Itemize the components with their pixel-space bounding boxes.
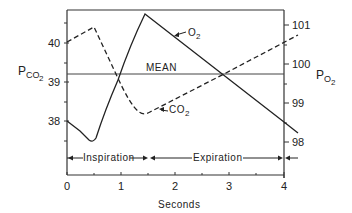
y-left-axis-title: P CO 2 xyxy=(18,64,44,83)
co2-series-line xyxy=(67,27,298,114)
respiratory-gas-chart: 40 39 38 101 100 99 98 0 1 2 3 4 Seconds… xyxy=(0,0,352,213)
svg-text:P: P xyxy=(18,64,26,78)
svg-text:CO: CO xyxy=(169,104,185,115)
svg-text:2: 2 xyxy=(39,74,44,83)
y-right-tick-98: 98 xyxy=(292,136,304,148)
mean-label: MEAN xyxy=(146,62,177,73)
next-inspiration-arrow-icon xyxy=(285,156,290,161)
inspiration-start-arrow-icon xyxy=(68,156,73,161)
expiration-start-arrow-icon xyxy=(150,156,155,161)
x-tick-1: 1 xyxy=(118,180,124,192)
y-right-axis-title: P O 2 xyxy=(316,68,336,87)
x-tick-3: 3 xyxy=(226,180,232,192)
x-axis-title: Seconds xyxy=(158,199,200,210)
svg-text:P: P xyxy=(316,68,324,82)
svg-text:2: 2 xyxy=(196,32,201,41)
co2-arrowhead-icon xyxy=(159,107,164,112)
y-left-tick-38: 38 xyxy=(48,115,60,127)
svg-text:O: O xyxy=(324,74,331,84)
expiration-end-arrow-icon xyxy=(278,156,283,161)
o2-arrowhead-icon xyxy=(174,32,179,37)
phase-bar: Inspiration Expiration xyxy=(67,152,298,163)
inspiration-label: Inspiration xyxy=(83,152,135,163)
inspiration-end-arrow-icon xyxy=(143,156,148,161)
expiration-label: Expiration xyxy=(193,152,242,163)
svg-text:CO: CO xyxy=(26,70,40,80)
x-tick-2: 2 xyxy=(172,180,178,192)
x-tick-0: 0 xyxy=(64,180,70,192)
svg-text:2: 2 xyxy=(331,78,336,87)
y-right-tick-100: 100 xyxy=(292,58,310,70)
y-left-tick-39: 39 xyxy=(48,76,60,88)
co2-annotation: CO 2 xyxy=(159,104,190,118)
x-tick-4: 4 xyxy=(281,180,287,192)
y-left-tick-40: 40 xyxy=(48,37,60,49)
y-right-tick-99: 99 xyxy=(292,97,304,109)
svg-text:2: 2 xyxy=(185,109,190,118)
y-right-tick-101: 101 xyxy=(292,19,310,31)
